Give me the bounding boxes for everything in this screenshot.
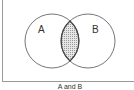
venn-diagram: A B xyxy=(0,0,134,90)
set-b-label: B xyxy=(92,24,99,35)
set-a-label: A xyxy=(38,24,45,35)
diagram-caption: A and B xyxy=(0,83,134,90)
